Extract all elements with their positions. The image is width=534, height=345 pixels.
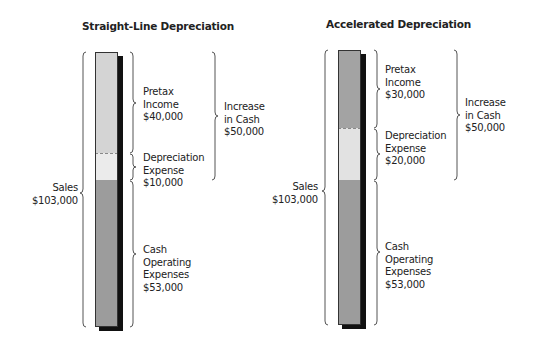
increase-in-cash-brace — [454, 50, 460, 180]
sales-brace — [322, 50, 328, 325]
cash-operating-expenses-brace — [374, 181, 380, 325]
sales-brace — [80, 52, 86, 327]
depreciation-expense-brace — [374, 129, 380, 180]
pretax-income-brace — [130, 52, 136, 153]
pretax-income-brace — [374, 50, 380, 128]
depreciation-expense-brace — [130, 154, 136, 180]
increase-in-cash-brace — [212, 52, 218, 180]
braces-layer — [0, 0, 534, 345]
cash-operating-expenses-brace — [130, 181, 136, 327]
